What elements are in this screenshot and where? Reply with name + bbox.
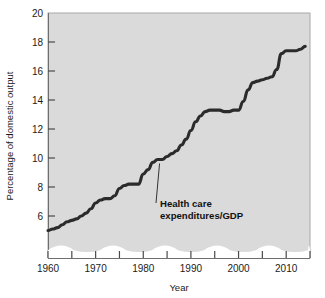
health-expenditure-line-chart: 68101214161820 196019701980199020002010 … bbox=[0, 0, 325, 298]
y-tick-label: 14 bbox=[32, 95, 44, 106]
x-tick-label: 2000 bbox=[227, 263, 250, 274]
x-axis-tick-labels: 196019701980199020002010 bbox=[37, 263, 298, 274]
y-tick-label: 12 bbox=[32, 124, 44, 135]
x-axis-title: Year bbox=[169, 282, 188, 293]
y-tick-label: 18 bbox=[32, 37, 44, 48]
x-tick-label: 1970 bbox=[85, 263, 108, 274]
plot-area-background bbox=[48, 13, 310, 258]
y-tick-label: 6 bbox=[37, 211, 43, 222]
y-tick-label: 10 bbox=[32, 153, 44, 164]
x-tick-label: 1990 bbox=[180, 263, 203, 274]
y-tick-label: 16 bbox=[32, 66, 44, 77]
y-axis-title: Percentage of domestic output bbox=[4, 71, 15, 200]
y-tick-label: 20 bbox=[32, 8, 44, 19]
chart-figure: 68101214161820 196019701980199020002010 … bbox=[0, 0, 325, 298]
annotation-label-line2: expenditures/GDP bbox=[160, 210, 244, 221]
annotation-label-line1: Health care bbox=[160, 198, 212, 209]
x-tick-label: 2010 bbox=[275, 263, 298, 274]
y-axis-tick-labels: 68101214161820 bbox=[32, 8, 44, 222]
y-tick-label: 8 bbox=[37, 182, 43, 193]
x-tick-label: 1980 bbox=[132, 263, 155, 274]
x-tick-label: 1960 bbox=[37, 263, 60, 274]
